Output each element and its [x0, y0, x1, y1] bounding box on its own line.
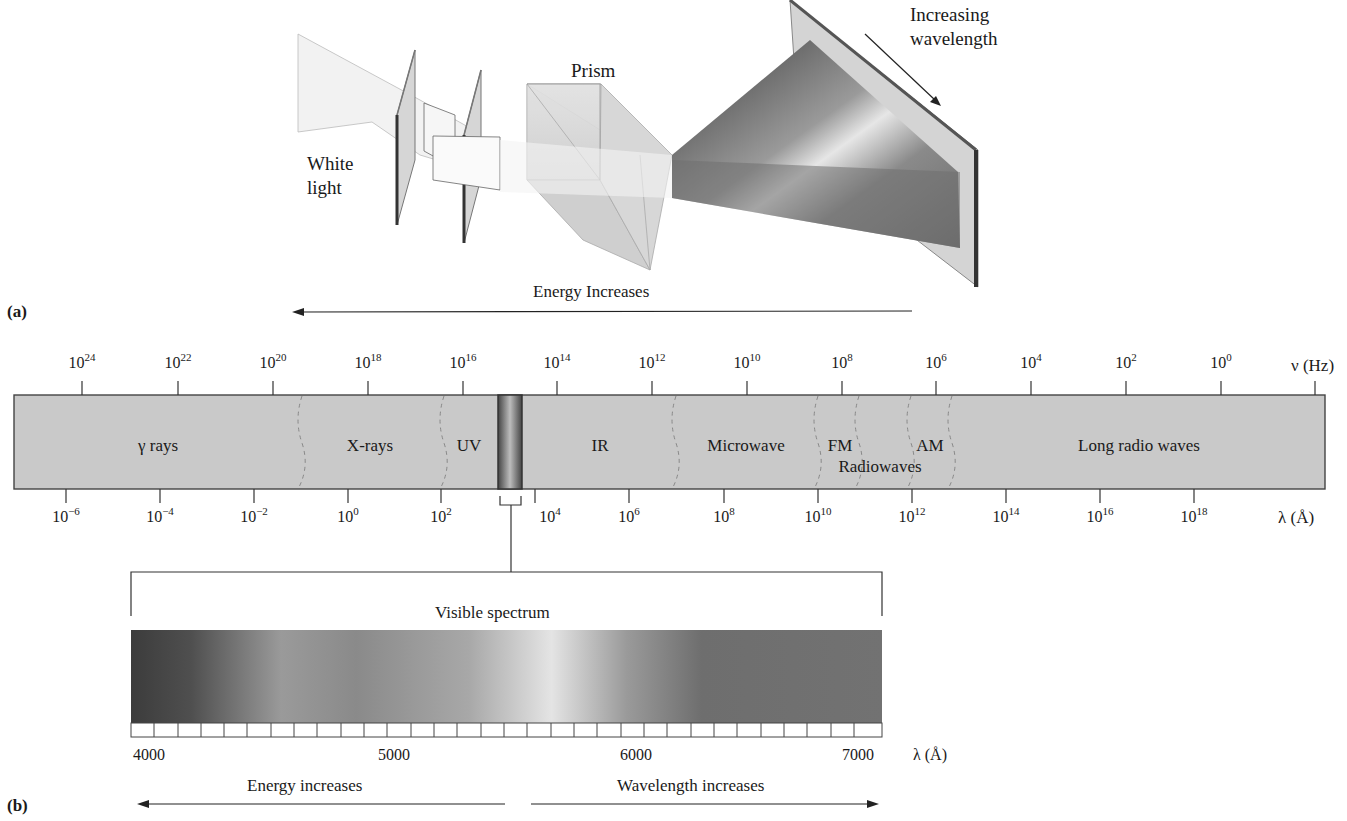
white-light-label-line2: light: [307, 176, 353, 200]
dispersed-spectrum-fan: [661, 40, 960, 248]
freq-tick-label: 106: [925, 354, 947, 372]
white-light-label: White light: [307, 152, 353, 200]
wavelength-unit-label: λ (Å): [1278, 508, 1314, 528]
wavelength-tick-label: 10−2: [240, 508, 268, 526]
freq-tick-label: 1018: [355, 354, 382, 372]
wavelength-tick-label: 1016: [1087, 508, 1114, 526]
increasing-wavelength-label-line2: wavelength: [910, 27, 998, 51]
wavelength-tick-label: 1012: [899, 508, 926, 526]
region-microwave: Microwave: [707, 436, 784, 456]
wavelength-tick-label: 10−6: [52, 508, 80, 526]
freq-tick-label: 1012: [639, 354, 666, 372]
visible-unit-label: λ (Å): [913, 746, 947, 764]
wavelength-tick-label: 1014: [993, 508, 1020, 526]
visible-spectrum-strip: [131, 630, 882, 737]
visible-tick-label: 4000: [133, 746, 165, 764]
region-ir: IR: [592, 436, 609, 456]
freq-tick-label: 1014: [544, 354, 571, 372]
freq-tick-label: 1020: [260, 354, 287, 372]
region-am: AM: [916, 436, 943, 456]
region-radiowaves: Radiowaves: [838, 457, 921, 477]
increasing-wavelength-label: Increasing wavelength: [910, 3, 998, 51]
diagram-graphics: [0, 0, 1347, 821]
visible-tick-label: 6000: [620, 746, 652, 764]
visible-tick-label: 5000: [378, 746, 410, 764]
frequency-unit-label: ν (Hz): [1291, 356, 1334, 376]
wavelength-tick-label: 10−4: [146, 508, 174, 526]
freq-tick-label: 108: [831, 354, 853, 372]
freq-tick-label: 1010: [734, 354, 761, 372]
freq-tick-label: 102: [1115, 354, 1137, 372]
wavelength-tick-label: 100: [337, 508, 359, 526]
region-x-rays: X-rays: [347, 436, 393, 456]
increasing-wavelength-label-line1: Increasing: [910, 3, 998, 27]
wavelength-tick-label: 1010: [805, 508, 832, 526]
wavelength-tick-label: 102: [430, 508, 452, 526]
slit-plate-2: [433, 70, 500, 243]
region-fm: FM: [828, 436, 853, 456]
wavelength-tick-label: 1018: [1181, 508, 1208, 526]
wavelength-increases-arrow: [531, 800, 879, 808]
white-light-label-line1: White: [307, 152, 353, 176]
energy-increases-label-b: Energy increases: [247, 776, 362, 796]
wavelength-axis-ticks: [66, 489, 1194, 503]
prism-label: Prism: [571, 60, 615, 82]
freq-tick-label: 1022: [165, 354, 192, 372]
frequency-axis-ticks: [82, 381, 1315, 395]
energy-increases-arrow-a: [292, 308, 912, 316]
wavelength-increases-label: Wavelength increases: [617, 776, 764, 796]
energy-increases-arrow-b: [137, 800, 505, 808]
freq-tick-label: 1016: [450, 354, 477, 372]
region-uv: UV: [457, 436, 482, 456]
wavelength-tick-label: 108: [713, 508, 735, 526]
region-gamma-rays: γ rays: [138, 436, 178, 456]
panel-a-tag: (a): [7, 302, 27, 322]
freq-tick-label: 1024: [69, 354, 96, 372]
wavelength-tick-label: 106: [618, 508, 640, 526]
visible-tick-label: 7000: [842, 746, 874, 764]
energy-increases-label-a: Energy Increases: [533, 282, 649, 302]
freq-tick-label: 104: [1020, 354, 1042, 372]
panel-b-tag: (b): [7, 796, 28, 816]
wavelength-tick-label: 104: [539, 508, 561, 526]
freq-tick-label: 100: [1210, 354, 1232, 372]
visible-spectrum-title: Visible spectrum: [435, 603, 550, 623]
region-long-radio-waves: Long radio waves: [1078, 436, 1200, 456]
